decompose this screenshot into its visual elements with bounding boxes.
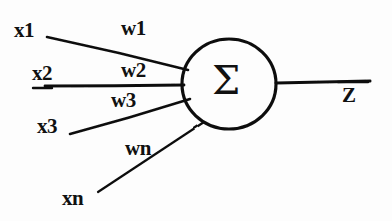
output-label-z: Z <box>342 85 356 106</box>
weight-label-wn: wn <box>125 138 151 159</box>
input-line-x2 <box>45 85 184 86</box>
input-label-x3: x3 <box>37 116 57 137</box>
input-label-xn: xn <box>62 188 83 209</box>
diagram-vector-layer <box>0 0 392 221</box>
weight-label-w3: w3 <box>111 90 136 111</box>
input-label-x1: x1 <box>14 20 34 41</box>
input-line-x1 <box>47 37 188 70</box>
neuron-diagram-canvas: Σ x1 x2 x3 xn w1 w2 w3 wn Z <box>0 0 392 221</box>
input-line-xn <box>98 122 204 192</box>
input-label-x2: x2 <box>32 63 52 84</box>
weight-label-w1: w1 <box>121 18 146 39</box>
sigma-symbol: Σ <box>212 60 240 100</box>
weight-label-w2: w2 <box>121 60 146 81</box>
